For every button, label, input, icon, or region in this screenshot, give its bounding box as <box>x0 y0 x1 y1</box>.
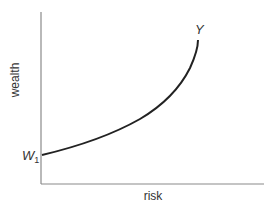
x-axis-label: risk <box>144 189 164 203</box>
w1-label: W1 <box>22 148 39 165</box>
y-axis-label: wealth <box>8 63 22 99</box>
w1-subscript: 1 <box>34 155 39 165</box>
chart: risk wealth W1 Y <box>0 0 275 209</box>
wealth-risk-curve <box>42 40 198 155</box>
y-point-label: Y <box>195 22 205 37</box>
